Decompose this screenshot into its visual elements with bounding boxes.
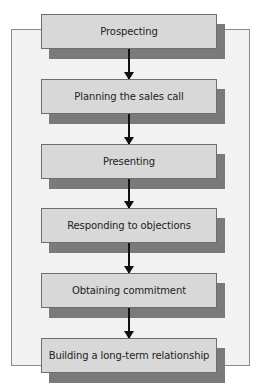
step-box: Responding to objections [41, 208, 217, 243]
step-responding: Responding to objections [41, 208, 217, 243]
step-prospecting: Prospecting [41, 14, 217, 49]
arrow-down-icon [128, 49, 130, 79]
step-presenting: Presenting [41, 144, 217, 179]
step-obtaining: Obtaining commitment [41, 273, 217, 308]
arrow-down-icon [128, 179, 130, 208]
step-box: Presenting [41, 144, 217, 179]
step-planning: Planning the sales call [41, 79, 217, 114]
step-box: Building a long-term relationship [41, 338, 217, 373]
arrow-down-icon [128, 243, 130, 273]
arrow-down-icon [128, 114, 130, 144]
step-box: Planning the sales call [41, 79, 217, 114]
arrow-down-icon [128, 308, 130, 338]
step-building: Building a long-term relationship [41, 338, 217, 373]
step-box: Obtaining commitment [41, 273, 217, 308]
step-box: Prospecting [41, 14, 217, 49]
